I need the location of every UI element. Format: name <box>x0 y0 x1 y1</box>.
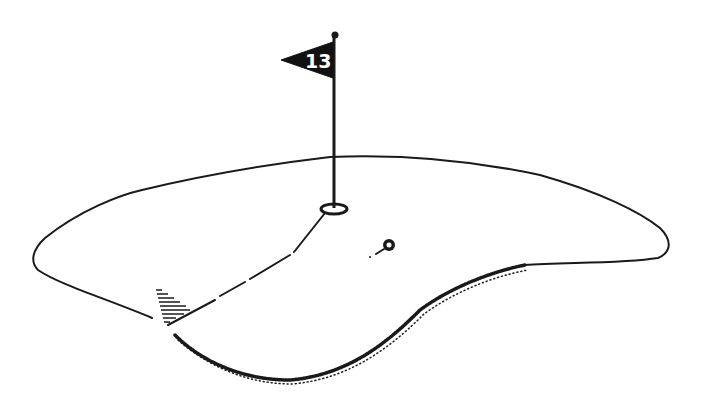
putt-line <box>168 213 325 325</box>
shadow-stipple <box>178 270 528 384</box>
flag-number: 13 <box>305 50 331 72</box>
golf-green-illustration: 13 <box>0 0 725 405</box>
golf-ball-icon <box>369 239 395 258</box>
tee-marker-icon <box>156 290 190 322</box>
shadow-edge <box>175 265 525 380</box>
green-outline <box>33 156 669 380</box>
flagstick-top <box>332 32 339 39</box>
